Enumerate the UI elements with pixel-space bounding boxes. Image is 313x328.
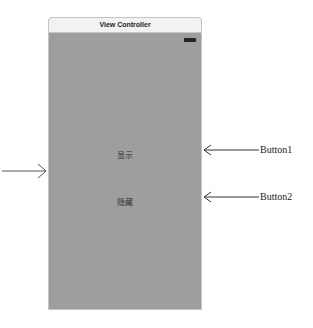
hide-button[interactable]: 隐藏 [49,196,201,207]
button1-pointer-arrow-icon [203,144,259,156]
scene-title: View Controller [49,18,201,33]
button2-annotation: Button2 [260,191,292,202]
battery-icon [184,38,196,42]
entry-point-arrow-icon [2,163,48,179]
button1-annotation: Button1 [260,144,292,155]
show-button[interactable]: 显示 [49,149,201,160]
view-controller-scene[interactable]: View Controller 显示 隐藏 [48,17,202,310]
button2-pointer-arrow-icon [203,191,259,203]
